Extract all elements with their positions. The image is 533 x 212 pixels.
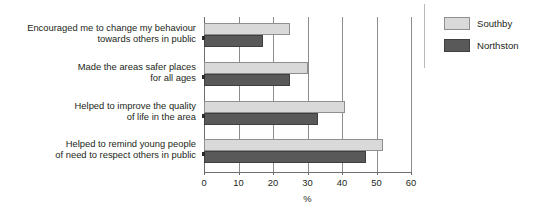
bar-chart-figure: Encouraged me to change my behaviour tow… (0, 0, 533, 212)
bar-southby-group-1 (204, 23, 290, 35)
legend-label-southby: Southby (477, 18, 512, 29)
x-tick-label-60: 60 (399, 177, 423, 188)
x-tick-label-50: 50 (365, 177, 389, 188)
plot-area: 0102030405060 (204, 17, 411, 172)
bar-northston-group-4 (204, 151, 366, 163)
x-tick-label-30: 30 (296, 177, 320, 188)
x-tick-label-0: 0 (192, 177, 216, 188)
bar-origin-marker-group-3 (202, 114, 205, 118)
x-tick-label-10: 10 (227, 177, 251, 188)
bar-northston-group-3 (204, 113, 318, 125)
legend-swatch-icon-southby (444, 17, 470, 30)
x-tick-label-20: 20 (261, 177, 285, 188)
bar-southby-group-4 (204, 139, 383, 151)
legend-item-northston: Northston (444, 39, 530, 52)
gridline-60 (411, 17, 412, 172)
category-label-4: Helped to remind young people of need to… (0, 138, 196, 160)
legend-swatch-icon-northston (444, 39, 470, 52)
category-axis-labels: Encouraged me to change my behaviour tow… (0, 17, 200, 172)
x-axis-title: % (204, 193, 411, 204)
bar-origin-marker-group-2 (202, 75, 205, 79)
x-tick-label-40: 40 (330, 177, 354, 188)
bar-northston-group-1 (204, 35, 263, 47)
legend-item-southby: Southby (444, 17, 530, 30)
bar-origin-marker-group-4 (202, 152, 205, 156)
category-label-2: Made the areas safer places for all ages (0, 61, 196, 83)
legend-label-northston: Northston (477, 40, 519, 51)
legend-divider (424, 4, 425, 68)
clipped-caption-text (6, 0, 426, 3)
bar-southby-group-3 (204, 101, 345, 113)
category-label-3: Helped to improve the quality of life in… (0, 100, 196, 122)
category-label-1: Encouraged me to change my behaviour tow… (0, 22, 196, 44)
chart-legend: SouthbyNorthston (444, 17, 530, 61)
x-axis-line (204, 172, 411, 173)
bar-southby-group-2 (204, 62, 308, 74)
bar-northston-group-2 (204, 74, 290, 86)
x-tick-60 (411, 172, 412, 175)
bar-origin-marker-group-1 (202, 36, 205, 40)
